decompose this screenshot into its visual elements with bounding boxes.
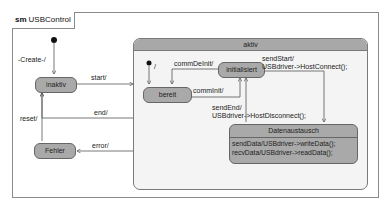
state-bereit[interactable]: bereit — [143, 87, 192, 103]
transition-trigger: sendEnd/ — [212, 104, 306, 112]
internal-activities: sendData/USBdriver->writeData(); recvDat… — [230, 137, 357, 158]
transition-label-create: -Create-/ — [18, 56, 46, 64]
transition-label-sendend: sendEnd/ USBdriver->HostDisconnect(); — [212, 104, 306, 120]
state-datenaustausch[interactable]: Datenaustausch sendData/USBdriver->write… — [229, 124, 358, 164]
transition-label-inner-initial: / — [154, 63, 156, 71]
transition-label-error: error/ — [92, 142, 109, 150]
transition-label-end: end/ — [94, 109, 108, 117]
internal-activity: recvData/USBdriver->readData(); — [232, 148, 355, 157]
transition-label-comminit: commInit/ — [193, 87, 223, 95]
transition-effect: USBdriver->HostDisconnect(); — [212, 112, 306, 120]
state-inaktiv[interactable]: inaktiv — [35, 77, 77, 93]
transition-label-start: start/ — [91, 74, 107, 82]
state-fehler[interactable]: Fehler — [34, 143, 76, 159]
inner-initial-pseudostate — [147, 61, 152, 66]
transition-trigger: sendStart/ — [262, 55, 347, 63]
transition-label-sendstart: sendStart/ USBdriver->HostConnect(); — [262, 55, 347, 71]
initial-pseudostate — [51, 37, 57, 43]
transition-label-reset: reset/ — [20, 115, 38, 123]
transition-effect: USBdriver->HostConnect(); — [262, 63, 347, 71]
state-initialisiert[interactable]: initialisiert — [218, 62, 265, 78]
state-name: Datenaustausch — [230, 125, 357, 137]
transition-arrows — [0, 0, 387, 210]
transition-label-commdeinit: commDeInit/ — [174, 60, 213, 68]
internal-activity: sendData/USBdriver->writeData(); — [232, 139, 355, 148]
